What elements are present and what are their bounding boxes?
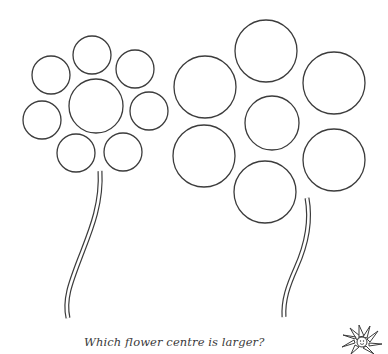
- petal-top-right: [303, 52, 365, 114]
- right-flower: [173, 20, 365, 317]
- question-text: Which flower centre is larger?: [84, 335, 284, 349]
- petal-top-right: [116, 50, 154, 88]
- petal-bottom-right: [303, 129, 365, 191]
- petal-bottom: [234, 161, 296, 223]
- petal-bottom-left: [173, 125, 235, 187]
- petal-top: [73, 36, 111, 74]
- flowers: [23, 20, 365, 318]
- stem: [284, 198, 309, 317]
- petal-right: [130, 92, 168, 130]
- flower-centre: [245, 96, 299, 150]
- petal-top: [235, 20, 297, 82]
- petal-bottom-right: [104, 133, 142, 171]
- flower-centre: [69, 79, 123, 133]
- worksheet-illustration: [0, 0, 388, 354]
- petal-top-left: [32, 56, 70, 94]
- petal-bottom-left: [57, 134, 95, 172]
- left-flower: [23, 36, 168, 318]
- daisy-icon: [340, 325, 388, 354]
- petal-left: [23, 101, 61, 139]
- petal-top-left: [174, 56, 236, 118]
- stem: [67, 171, 100, 318]
